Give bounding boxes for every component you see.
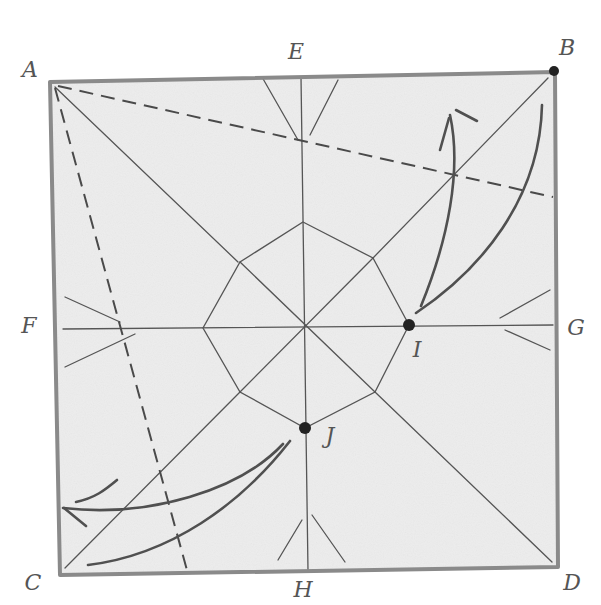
crease-diagram <box>0 0 601 605</box>
point-i-dot <box>403 319 415 331</box>
label-d: D <box>563 572 581 594</box>
label-i: I <box>413 339 422 361</box>
label-j: J <box>326 425 335 447</box>
label-b: B <box>559 37 575 59</box>
point-b-dot <box>549 66 559 76</box>
label-f: F <box>21 315 36 337</box>
label-c: C <box>25 572 42 594</box>
point-j-dot <box>299 422 311 434</box>
label-g: G <box>567 317 585 339</box>
label-h: H <box>293 579 312 601</box>
label-e: E <box>288 41 304 63</box>
label-a: A <box>22 59 38 81</box>
